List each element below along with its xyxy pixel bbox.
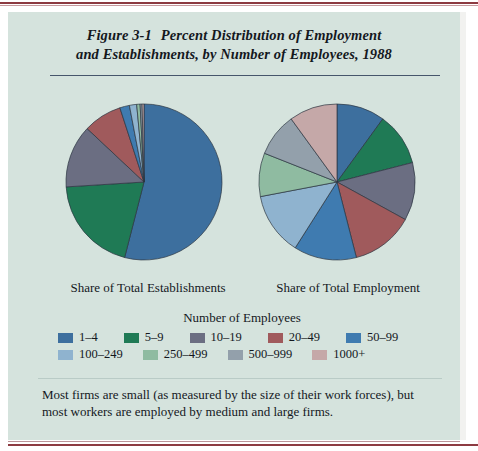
legend-item: 1000+ bbox=[312, 347, 365, 362]
legend-label: 100–249 bbox=[79, 347, 123, 362]
legend-row-1: 1–45–910–1920–4950–99 bbox=[16, 330, 468, 345]
figure-panel: Figure 3-1Percent Distribution of Employ… bbox=[8, 12, 460, 440]
legend-swatch bbox=[190, 333, 205, 343]
legend-swatch bbox=[58, 350, 73, 360]
legend-swatch bbox=[268, 333, 283, 343]
pie-caption-establishments: Share of Total Establishments bbox=[30, 280, 266, 296]
page-rule-top-thin bbox=[0, 5, 478, 6]
legend-swatch bbox=[143, 350, 158, 360]
figure-note: Most firms are small (as measured by the… bbox=[42, 386, 436, 420]
legend-item: 10–19 bbox=[190, 330, 242, 345]
legend-label: 250–499 bbox=[164, 347, 208, 362]
legend-item: 500–999 bbox=[228, 347, 293, 362]
legend-label: 50–99 bbox=[367, 330, 398, 345]
legend-item: 250–499 bbox=[143, 347, 208, 362]
legend-item: 20–49 bbox=[268, 330, 320, 345]
legend-label: 500–999 bbox=[249, 347, 293, 362]
pie-chart-establishments bbox=[62, 100, 226, 268]
figure-title: Figure 3-1Percent Distribution of Employ… bbox=[34, 26, 434, 64]
note-divider bbox=[38, 378, 442, 379]
legend-title: Number of Employees bbox=[16, 310, 468, 326]
legend-item: 5–9 bbox=[124, 330, 164, 345]
legend-item: 100–249 bbox=[58, 347, 123, 362]
page-rule-bottom-thin bbox=[8, 441, 460, 442]
legend-row-2: 100–249250–499500–9991000+ bbox=[16, 347, 468, 362]
pie-svg bbox=[255, 100, 419, 264]
page-rule-top bbox=[0, 2, 478, 4]
legend-swatch bbox=[124, 333, 139, 343]
title-divider bbox=[50, 75, 440, 76]
legend-swatch bbox=[312, 350, 327, 360]
legend-item: 1–4 bbox=[58, 330, 98, 345]
figure-number: Figure 3-1 bbox=[87, 27, 152, 43]
page-rule-bottom bbox=[8, 444, 478, 446]
legend-swatch bbox=[58, 333, 73, 343]
legend-label: 5–9 bbox=[145, 330, 164, 345]
legend-label: 20–49 bbox=[289, 330, 320, 345]
pie-chart-area bbox=[16, 100, 460, 276]
legend-item: 50–99 bbox=[346, 330, 398, 345]
figure-title-line1: Percent Distribution of Employment bbox=[161, 27, 382, 43]
legend-swatch bbox=[228, 350, 243, 360]
legend-swatch bbox=[346, 333, 361, 343]
pie-caption-employment: Share of Total Employment bbox=[250, 280, 446, 296]
legend-label: 10–19 bbox=[211, 330, 242, 345]
figure-title-line2: and Establishments, by Number of Employe… bbox=[76, 46, 392, 62]
legend: Number of Employees 1–45–910–1920–4950–9… bbox=[16, 310, 468, 364]
panel-shadow bbox=[460, 12, 466, 440]
pie-chart-employment bbox=[255, 100, 419, 268]
legend-label: 1000+ bbox=[333, 347, 365, 362]
legend-label: 1–4 bbox=[79, 330, 98, 345]
pie-svg bbox=[62, 100, 226, 264]
